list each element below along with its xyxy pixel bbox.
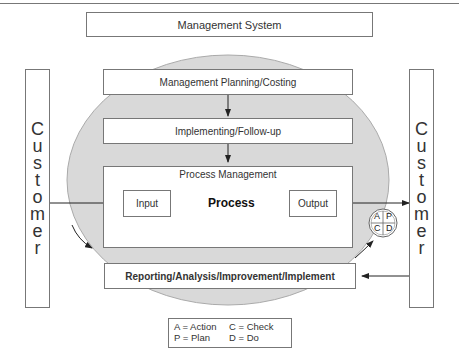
customer-letter: r: [35, 240, 41, 257]
customer-letter: u: [416, 138, 426, 155]
legend-plan: P = Plan: [174, 332, 229, 343]
customer-letter: r: [419, 240, 425, 257]
customer-letter: m: [30, 206, 45, 223]
customer-letter: C: [31, 121, 44, 138]
input-label: Input: [136, 198, 158, 209]
customer-letter: t: [35, 172, 40, 189]
reporting-label: Reporting/Analysis/Improvement/Implement: [125, 271, 335, 282]
customer-letter: t: [419, 172, 424, 189]
legend-do: D = Do: [229, 332, 259, 343]
planning-box: Management Planning/Costing: [103, 69, 353, 95]
input-box: Input: [123, 190, 171, 217]
customer-letter: e: [32, 223, 42, 240]
legend-box: A = Action C = Check P = Plan D = Do: [168, 318, 292, 348]
implementing-box: Implementing/Follow-up: [103, 118, 353, 144]
pdca-c: C: [374, 223, 381, 233]
reporting-box: Reporting/Analysis/Improvement/Implement: [104, 263, 356, 289]
legend-action: A = Action: [174, 321, 229, 332]
customer-letter: o: [416, 189, 426, 206]
legend-check: C = Check: [229, 321, 274, 332]
output-label: Output: [298, 198, 328, 209]
customer-letter: m: [414, 206, 429, 223]
customer-letter: o: [32, 189, 42, 206]
customer-left: C u s t o m e r: [25, 69, 50, 308]
customer-letter: C: [415, 121, 428, 138]
pdca-p: P: [386, 211, 392, 221]
pdca-a: A: [374, 211, 380, 221]
process-management-label: Process Management: [179, 169, 276, 180]
management-system-label: Management System: [178, 19, 282, 31]
implementing-label: Implementing/Follow-up: [175, 126, 281, 137]
pdca-d: D: [386, 223, 393, 233]
process-label: Process: [208, 196, 255, 210]
output-box: Output: [289, 190, 337, 217]
customer-right: C u s t o m e r: [409, 69, 434, 308]
customer-letter: e: [416, 223, 426, 240]
customer-letter: s: [417, 155, 426, 172]
customer-letter: u: [32, 138, 42, 155]
planning-label: Management Planning/Costing: [160, 77, 297, 88]
management-system-box: Management System: [86, 12, 373, 37]
customer-letter: s: [33, 155, 42, 172]
